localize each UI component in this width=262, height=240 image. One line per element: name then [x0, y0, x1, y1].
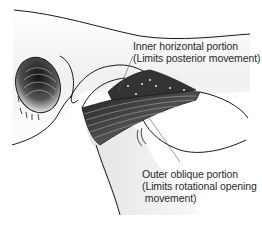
outer-label-line3: movement): [142, 192, 257, 204]
inner-horizontal-portion-label: Inner horizontal portion (Limits posteri…: [133, 40, 260, 64]
outer-label-line2: (Limits rotational opening: [142, 180, 257, 192]
sigmoid-upper: [200, 92, 248, 118]
outer-label-line1: Outer oblique portion: [142, 168, 257, 180]
outer-oblique-portion-label: Outer oblique portion (Limits rotational…: [142, 168, 257, 204]
inner-label-line1: Inner horizontal portion: [133, 40, 260, 52]
coronoid-notch: [142, 118, 246, 152]
inner-label-line2: (Limits posterior movement): [133, 52, 260, 64]
